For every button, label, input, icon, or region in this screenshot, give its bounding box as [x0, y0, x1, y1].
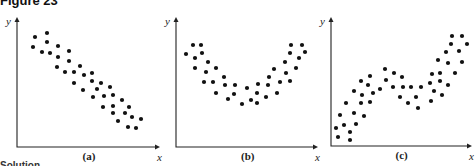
data-point	[90, 79, 94, 83]
data-point	[82, 73, 86, 77]
data-point	[72, 81, 76, 85]
data-point	[465, 42, 469, 46]
scatter-panel-b: yx(b)	[164, 15, 320, 163]
data-point	[450, 34, 454, 38]
data-point	[211, 80, 215, 84]
data-point	[406, 101, 410, 105]
data-point	[457, 49, 461, 53]
data-point	[438, 79, 442, 83]
data-point	[240, 102, 244, 106]
scatter-plots-figure: yx(a)yx(b)yx(c)	[0, 0, 475, 166]
data-point	[264, 95, 268, 99]
data-point	[288, 51, 292, 55]
data-point	[33, 35, 37, 39]
data-point	[338, 113, 342, 117]
data-point	[193, 66, 197, 70]
data-point	[391, 85, 395, 89]
data-point	[432, 89, 436, 93]
data-point	[232, 92, 236, 96]
data-point	[275, 91, 279, 95]
data-point	[202, 80, 206, 84]
data-point	[130, 115, 134, 119]
data-point	[366, 83, 370, 87]
data-point	[91, 95, 95, 99]
data-point	[336, 135, 340, 139]
data-point	[255, 91, 259, 95]
data-point	[378, 87, 382, 91]
data-point	[283, 60, 287, 64]
data-point	[111, 93, 115, 97]
scatter-panel-a: yx(a)	[5, 15, 162, 163]
data-point	[249, 98, 253, 102]
data-point	[368, 74, 372, 78]
data-point	[446, 61, 450, 65]
scatter-panel-c: yx(c)	[319, 15, 474, 162]
data-point	[245, 86, 249, 90]
data-point	[444, 50, 448, 54]
data-point	[354, 122, 358, 126]
data-point	[214, 91, 218, 95]
data-point	[123, 111, 127, 115]
data-point	[289, 43, 293, 47]
data-point	[288, 79, 292, 83]
data-point	[398, 95, 402, 99]
data-point	[352, 111, 356, 115]
data-point	[419, 85, 423, 89]
y-axis-arrow-icon	[15, 17, 20, 22]
data-point	[95, 87, 99, 91]
data-point	[342, 123, 346, 127]
data-point	[222, 75, 226, 79]
data-point	[401, 85, 405, 89]
data-point	[392, 71, 396, 75]
data-point	[438, 71, 442, 75]
data-point	[266, 83, 270, 87]
data-point	[383, 67, 387, 71]
data-point	[199, 43, 203, 47]
data-point	[255, 101, 259, 105]
data-point	[139, 117, 143, 121]
data-point	[45, 31, 49, 35]
data-point	[359, 101, 363, 105]
solution-heading-cutoff: Solution	[0, 160, 40, 166]
data-point	[102, 94, 106, 98]
data-point	[453, 71, 457, 75]
data-point	[90, 71, 94, 75]
data-point	[206, 60, 210, 64]
data-point	[460, 34, 464, 38]
data-point	[352, 89, 356, 93]
data-point	[359, 79, 363, 83]
x-axis-label: x	[468, 150, 474, 162]
data-point	[127, 105, 131, 109]
x-axis-label: x	[314, 151, 320, 163]
data-point	[81, 88, 85, 92]
data-point	[226, 97, 230, 101]
data-point	[429, 99, 433, 103]
data-point	[63, 70, 67, 74]
panel-label: (c)	[396, 149, 409, 162]
data-point	[348, 138, 352, 142]
data-point	[362, 114, 366, 118]
data-point	[294, 66, 298, 70]
x-axis-arrow-icon	[155, 145, 160, 150]
x-axis-arrow-icon	[313, 145, 318, 150]
x-axis-label: x	[156, 151, 162, 163]
data-point	[409, 85, 413, 89]
data-point	[200, 51, 204, 55]
data-point	[416, 106, 420, 110]
data-point	[116, 119, 120, 123]
data-point	[449, 42, 453, 46]
data-point	[300, 43, 304, 47]
data-point	[371, 91, 375, 95]
data-point	[446, 83, 450, 87]
data-point	[272, 67, 276, 71]
data-point	[48, 51, 52, 55]
data-point	[78, 64, 82, 68]
data-point	[72, 70, 76, 74]
data-point	[430, 72, 434, 76]
data-point	[40, 50, 44, 54]
data-point	[303, 50, 307, 54]
data-point	[126, 125, 130, 129]
data-point	[108, 85, 112, 89]
axis-lines	[176, 21, 314, 147]
data-point	[120, 98, 124, 102]
